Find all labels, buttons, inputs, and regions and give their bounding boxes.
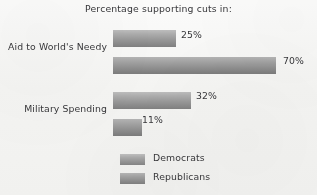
bar-military-democrats[interactable] bbox=[113, 92, 191, 109]
category-label-military-spending: Military Spending bbox=[0, 103, 107, 114]
bar-aid-democrats[interactable] bbox=[113, 30, 176, 47]
legend-swatch-democrats bbox=[120, 154, 145, 165]
bar-aid-republicans[interactable] bbox=[113, 57, 276, 74]
bar-chart: Percentage supporting cuts in: Aid to Wo… bbox=[0, 0, 317, 195]
value-label-aid-democrats: 25% bbox=[181, 29, 202, 40]
bar-military-republicans[interactable] bbox=[113, 119, 142, 136]
bar-front-face bbox=[113, 92, 191, 109]
bar-front-face bbox=[113, 119, 142, 136]
bar-side-face bbox=[276, 57, 282, 74]
value-label-aid-republicans: 70% bbox=[283, 55, 304, 66]
bar-front-face bbox=[113, 30, 176, 47]
bar-front-face bbox=[113, 57, 276, 74]
chart-title: Percentage supporting cuts in: bbox=[0, 3, 317, 14]
category-label-aid-to-worlds-needy: Aid to World's Needy bbox=[0, 41, 107, 52]
value-label-military-democrats: 32% bbox=[196, 90, 217, 101]
value-label-military-republicans: 11% bbox=[142, 114, 163, 125]
legend-swatch-republicans bbox=[120, 173, 145, 184]
legend-label-democrats: Democrats bbox=[153, 152, 205, 163]
legend-label-republicans: Republicans bbox=[153, 171, 210, 182]
